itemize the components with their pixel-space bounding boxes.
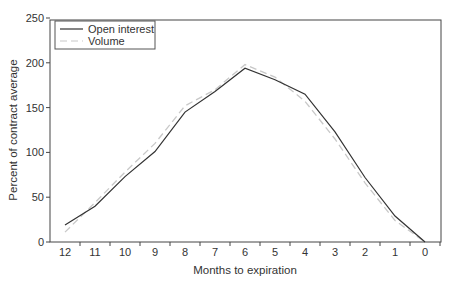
data-series [65,65,425,242]
x-tick-label: 6 [242,246,248,258]
x-tick-label: 9 [152,246,158,258]
x-axis-title: Months to expiration [193,264,297,276]
legend-label: Volume [88,35,125,47]
y-tick-label: 50 [32,191,44,203]
x-tick-label: 10 [119,246,131,258]
x-tick-label: 5 [272,246,278,258]
plot-border [50,20,441,242]
series-volume [65,65,425,242]
y-tick-label: 200 [26,57,44,69]
x-tick-label: 4 [302,246,308,258]
y-tick-label: 100 [26,146,44,158]
y-tick-label: 150 [26,102,44,114]
plot-frame [50,20,441,242]
y-tick-label: 250 [26,12,44,24]
y-axis-title: Percent of contract average [7,59,19,200]
x-tick-label: 8 [182,246,188,258]
legend: Open interestVolume [55,21,155,49]
line-chart: 050100150200250 1211109876543210 Open in… [0,0,451,285]
x-tick-label: 1 [392,246,398,258]
x-tick-label: 7 [212,246,218,258]
series-open-interest [65,68,425,242]
y-axis: 050100150200250 [26,12,50,248]
legend-label: Open interest [88,23,154,35]
x-tick-label: 12 [59,246,71,258]
x-tick-label: 0 [422,246,428,258]
y-tick-label: 0 [38,236,44,248]
x-tick-label: 11 [89,246,100,258]
x-tick-label: 2 [362,246,368,258]
x-tick-label: 3 [332,246,338,258]
x-axis: 1211109876543210 [59,242,440,258]
